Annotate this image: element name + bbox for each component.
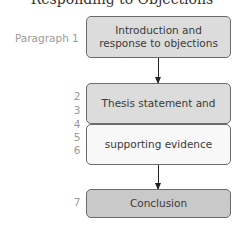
- paragraph-label: Paragraph 1: [15, 32, 79, 44]
- paragraph-number: 3: [72, 104, 82, 116]
- paragraph-number: 4: [72, 118, 82, 130]
- evidence-box-text: supporting evidence: [105, 138, 213, 151]
- paragraph-number: 7: [72, 196, 82, 208]
- arrow-down-icon: [158, 58, 159, 83]
- paragraph-number: 6: [72, 144, 82, 156]
- conclusion-box: Conclusion: [86, 189, 231, 218]
- paragraph-number: 2: [72, 90, 82, 102]
- thesis-box: Thesis statement and: [86, 83, 231, 124]
- conclusion-box-text: Conclusion: [130, 197, 187, 210]
- thesis-box-text: Thesis statement and: [102, 97, 216, 110]
- diagram-title: Responding to Objections: [0, 0, 244, 7]
- paragraph-number: 5: [72, 131, 82, 143]
- arrow-down-icon: [158, 165, 159, 189]
- introduction-box-text: Introduction and response to objections: [87, 24, 230, 50]
- evidence-box: supporting evidence: [86, 124, 231, 165]
- introduction-box: Introduction and response to objections: [86, 16, 231, 58]
